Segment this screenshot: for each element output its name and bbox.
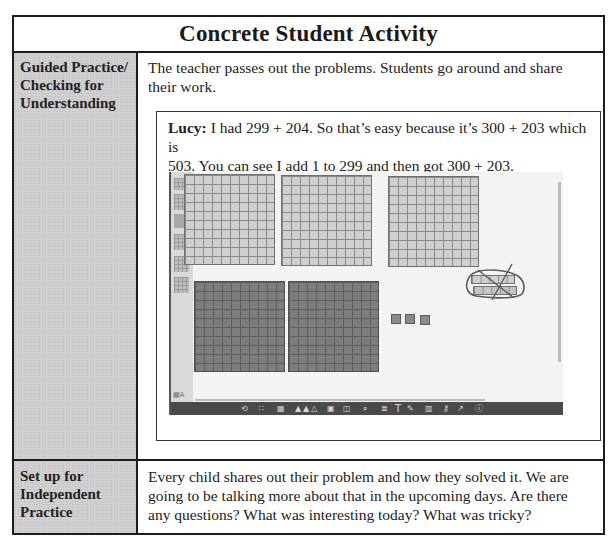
student-example-box: Lucy: I had 299 + 204. So that’s easy be…: [156, 111, 601, 441]
hundred-flat-dark: [194, 281, 285, 372]
zoom-icon[interactable]: ⌕: [363, 403, 367, 414]
label-line: Practice: [20, 503, 101, 521]
label-line: Independent: [20, 485, 101, 503]
text-line: any questions? What was interesting toda…: [148, 505, 569, 524]
unit-cube: [420, 315, 430, 325]
text-line: their work.: [148, 77, 563, 96]
guided-practice-text: The teacher passes out the problems. Stu…: [148, 58, 563, 96]
text-icon[interactable]: T: [395, 403, 401, 414]
circle-crossout-annotation: [464, 262, 530, 306]
palette-thumbnail: [174, 277, 189, 293]
list-icon[interactable]: ≣: [381, 403, 388, 414]
palette-corner-icon: ▦A: [173, 391, 184, 399]
hundred-flat-light: [388, 176, 479, 267]
table-title: Concrete Student Activity: [14, 17, 603, 53]
text-line: Every child shares out their problem and…: [148, 467, 569, 486]
student-quote: Lucy: I had 299 + 204. So that’s easy be…: [168, 118, 593, 175]
unit-cube: [405, 314, 415, 324]
whiteboard-screenshot: ▦A ⟲ ∷ ▦: [169, 172, 563, 415]
label-line: Set up for: [20, 467, 101, 485]
split-icon[interactable]: ◫: [343, 403, 351, 414]
hundred-flat-light: [281, 175, 372, 266]
blocks-icon[interactable]: ▦: [277, 403, 285, 414]
fill-icon[interactable]: ▲: [303, 403, 309, 414]
label-line: Guided Practice/: [20, 58, 128, 76]
quote-line-1: Lucy: I had 299 + 204. So that’s easy be…: [168, 118, 593, 156]
vertical-scrollbar[interactable]: [558, 182, 561, 362]
independent-practice-row: Set up for Independent Practice Every ch…: [12, 459, 605, 535]
rotate-icon[interactable]: ⟲: [241, 403, 248, 414]
text-line: The teacher passes out the problems. Stu…: [148, 58, 563, 77]
activity-table: Concrete Student Activity Guided Practic…: [12, 15, 605, 492]
row-label-guided-practice: Guided Practice/ Checking for Understand…: [14, 53, 138, 461]
independent-practice-text: Every child shares out their problem and…: [148, 467, 569, 524]
quote-text: I had 299 + 204. So that’s easy because …: [168, 119, 586, 155]
text-line: going to be talking more about that in t…: [148, 486, 569, 505]
fill-icon[interactable]: △: [311, 403, 317, 414]
info-icon[interactable]: ⓘ: [475, 403, 483, 414]
hundred-flat-light: [184, 174, 275, 265]
fill-icon[interactable]: ▲: [295, 403, 301, 414]
group-icon[interactable]: ▣: [327, 403, 335, 414]
trash-icon[interactable]: ▥: [425, 403, 433, 414]
horizontal-scrollbar[interactable]: [195, 399, 485, 401]
key-icon[interactable]: ⚷: [443, 403, 449, 414]
unit-cube: [391, 314, 401, 324]
share-icon[interactable]: ↗: [457, 403, 464, 414]
whiteboard-toolbar: ⟲ ∷ ▦ ▲ ▲ △ ▣ ◫ ⌕ ≣ T ✎ ▥ ⚷ ↗ ⓘ: [171, 402, 563, 415]
speaker-name: Lucy:: [168, 119, 207, 136]
label-line: Understanding: [20, 94, 128, 112]
pen-icon[interactable]: ✎: [407, 403, 414, 414]
hundred-flat-dark: [288, 281, 379, 372]
grid-icon[interactable]: ∷: [259, 403, 264, 414]
row-label-independent-practice-cell: Set up for Independent Practice: [14, 461, 138, 533]
label-line: Checking for: [20, 76, 128, 94]
